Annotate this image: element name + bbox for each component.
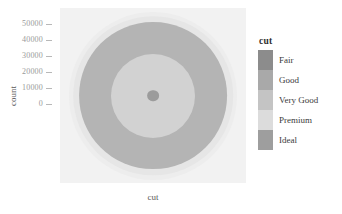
plot-panel — [60, 8, 246, 183]
legend-swatch-icon — [258, 90, 273, 110]
y-tick-label: 0 — [39, 99, 43, 109]
x-axis-title: cut — [60, 192, 246, 202]
legend-item-very-good[interactable]: Very Good — [258, 90, 342, 110]
y-tick-mark — [46, 40, 52, 41]
y-tick-label: 30000 — [22, 51, 43, 61]
legend-item-fair[interactable]: Fair — [258, 50, 342, 70]
y-tick-mark — [46, 72, 52, 73]
legend-items: FairGoodVery GoodPremiumIdeal — [258, 50, 342, 150]
legend-title: cut — [259, 36, 342, 46]
y-tick-10000: 10000 — [22, 83, 52, 93]
legend-item-good[interactable]: Good — [258, 70, 342, 90]
y-tick-label: 10000 — [22, 83, 43, 93]
legend-swatch-icon — [258, 130, 273, 150]
y-axis-title: count — [6, 8, 20, 183]
legend-item-label: Very Good — [279, 95, 318, 105]
legend-item-premium[interactable]: Premium — [258, 110, 342, 130]
legend: cut FairGoodVery GoodPremiumIdeal — [258, 36, 342, 150]
legend-swatch-icon — [258, 70, 273, 90]
y-tick-30000: 30000 — [22, 51, 52, 61]
legend-item-label: Premium — [279, 115, 312, 125]
y-tick-mark — [46, 104, 52, 105]
y-axis-title-text: count — [8, 86, 18, 106]
legend-item-ideal[interactable]: Ideal — [258, 130, 342, 150]
y-tick-20000: 20000 — [22, 67, 52, 77]
legend-swatch-icon — [258, 50, 273, 70]
chart-figure: 50000400003000020000100000 count cut cut… — [0, 0, 342, 214]
y-tick-label: 40000 — [22, 35, 43, 45]
legend-swatch-icon — [258, 110, 273, 130]
legend-item-label: Ideal — [279, 135, 297, 145]
y-tick-mark — [46, 88, 52, 89]
y-tick-mark — [46, 24, 52, 25]
legend-item-label: Good — [279, 75, 299, 85]
ring-ideal — [147, 90, 159, 102]
y-tick-label: 50000 — [22, 19, 43, 29]
legend-item-label: Fair — [279, 55, 294, 65]
y-tick-label: 20000 — [22, 67, 43, 77]
y-tick-0: 0 — [39, 99, 52, 109]
y-tick-40000: 40000 — [22, 35, 52, 45]
y-tick-50000: 50000 — [22, 19, 52, 29]
y-tick-mark — [46, 56, 52, 57]
